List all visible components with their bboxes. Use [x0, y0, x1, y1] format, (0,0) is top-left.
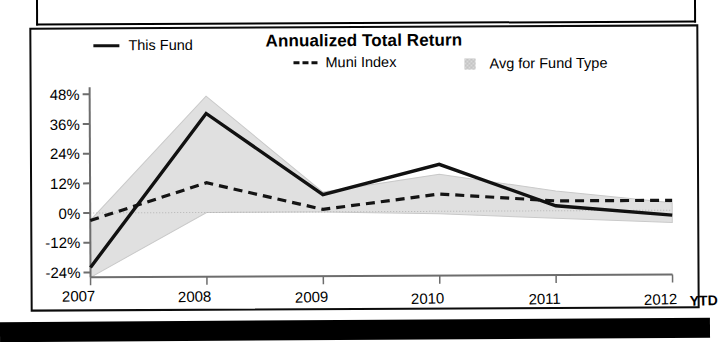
- x-tick-label: 2012: [644, 290, 678, 308]
- annualized-total-return-chart: Annualized Total Return This Fund Muni I…: [29, 24, 699, 311]
- y-tick-label: 0%: [58, 205, 80, 222]
- y-tick-label: 12%: [50, 175, 80, 192]
- scanned-panel-above: [36, 0, 696, 25]
- y-axis-tick-labels: 48%36%24%12%0%-12%-24%: [31, 29, 80, 309]
- y-tick-label: 48%: [50, 86, 80, 103]
- plot-area: 48%36%24%12%0%-12%-24% 20072008200920102…: [31, 26, 697, 309]
- scanned-black-bar-below: [0, 318, 710, 342]
- x-axis-ytd-label: YTD: [689, 292, 717, 309]
- y-tick-label: -12%: [45, 234, 80, 251]
- x-tick-label: 2007: [62, 287, 96, 305]
- plot-svg: [31, 26, 697, 309]
- x-tick-label: 2009: [295, 288, 329, 306]
- y-tick-label: -24%: [45, 264, 80, 281]
- x-tick-label: 2010: [411, 289, 445, 307]
- avg-fund-type-band: [90, 94, 673, 277]
- y-tick-label: 36%: [50, 116, 80, 133]
- x-tick-label: 2011: [528, 290, 561, 308]
- y-tick-label: 24%: [50, 145, 80, 162]
- x-tick-label: 2008: [178, 288, 212, 306]
